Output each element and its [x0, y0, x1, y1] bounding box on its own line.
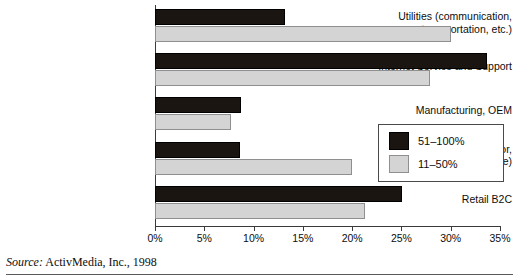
x-tick-3	[303, 226, 304, 231]
bar-1-2	[155, 114, 231, 130]
bar-1-0	[155, 26, 451, 42]
bar-0-2	[155, 97, 241, 113]
bar-0-1	[155, 53, 487, 69]
x-tick-label-5: 25%	[381, 232, 421, 244]
legend-item-series-1[interactable]: 11–50%	[389, 155, 458, 173]
x-tick-label-4: 20%	[332, 232, 372, 244]
bar-0-3	[155, 142, 240, 158]
x-tick-5	[401, 226, 402, 231]
legend-swatch-icon-series-0	[389, 132, 409, 150]
category-label-line1: Utilities (communication,	[369, 10, 512, 23]
x-tick-7	[500, 226, 501, 231]
x-axis-line	[155, 226, 501, 227]
x-tick-label-6: 30%	[431, 232, 471, 244]
x-tick-label-2: 10%	[234, 232, 274, 244]
source-text: ActivMedia, Inc., 1998	[45, 255, 157, 269]
bottom-divider	[6, 274, 513, 275]
x-tick-label-7: 35%	[480, 232, 519, 244]
x-tick-4	[352, 226, 353, 231]
bar-0-0	[155, 9, 285, 25]
x-tick-label-3: 15%	[283, 232, 323, 244]
category-label-line1: Manufacturing, OEM	[369, 104, 512, 117]
legend-label-series-0: 51–100%	[418, 135, 465, 147]
x-tick-label-0: 0%	[135, 232, 175, 244]
bar-0-4	[155, 186, 402, 202]
x-tick-2	[254, 226, 255, 231]
source-prefix: Source:	[6, 255, 43, 269]
legend-item-series-0[interactable]: 51–100%	[389, 132, 465, 150]
x-tick-6	[451, 226, 452, 231]
x-tick-label-1: 5%	[184, 232, 224, 244]
legend-label-series-1: 11–50%	[418, 158, 458, 170]
x-tick-0	[155, 226, 156, 231]
category-label-2: Manufacturing, OEM	[369, 104, 519, 117]
legend-swatch-icon-series-1	[389, 155, 409, 173]
bar-1-3	[155, 159, 352, 175]
legend: 51–100% 11–50%	[378, 124, 504, 182]
x-tick-1	[204, 226, 205, 231]
bar-chart: Utilities (communication,transportation,…	[0, 0, 519, 279]
bar-1-4	[155, 203, 365, 219]
bar-1-1	[155, 70, 430, 86]
source-note: Source: ActivMedia, Inc., 1998	[6, 255, 157, 270]
